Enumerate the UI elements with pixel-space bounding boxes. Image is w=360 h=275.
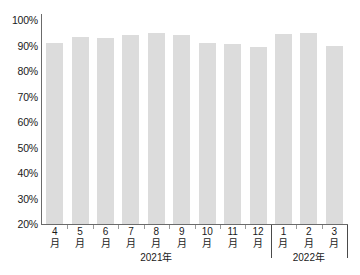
x-tick-month-number: 11 bbox=[220, 226, 246, 238]
x-tick-month-number: 12 bbox=[245, 226, 271, 238]
x-tick-month-number: 8 bbox=[143, 226, 169, 238]
x-tick-month-number: 1 bbox=[270, 226, 296, 238]
x-tick-month-number: 7 bbox=[118, 226, 144, 238]
x-axis-minor-tick bbox=[220, 225, 221, 229]
x-tick-month-number: 3 bbox=[321, 226, 347, 238]
y-axis-tick-label: 20% bbox=[0, 219, 38, 230]
x-tick-month-number: 10 bbox=[194, 226, 220, 238]
y-axis-tick-label: 40% bbox=[0, 168, 38, 179]
x-axis-minor-tick bbox=[118, 225, 119, 229]
x-axis-minor-tick bbox=[245, 225, 246, 229]
x-axis-tick-label: 4月 bbox=[42, 226, 68, 249]
x-tick-month-unit: 月 bbox=[93, 238, 119, 250]
x-axis-tick-label: 10月 bbox=[194, 226, 220, 249]
bar bbox=[122, 35, 139, 224]
x-tick-month-number: 6 bbox=[93, 226, 119, 238]
x-axis-minor-tick bbox=[322, 225, 323, 229]
x-tick-month-unit: 月 bbox=[296, 238, 322, 250]
y-axis-tick-label: 90% bbox=[0, 41, 38, 52]
y-axis-tick-label: 60% bbox=[0, 117, 38, 128]
x-axis-tick-label: 3月 bbox=[321, 226, 347, 249]
x-tick-month-unit: 月 bbox=[321, 238, 347, 250]
x-axis-minor-tick bbox=[169, 225, 170, 229]
x-tick-month-unit: 月 bbox=[245, 238, 271, 250]
x-tick-month-unit: 月 bbox=[270, 238, 296, 250]
x-tick-month-unit: 月 bbox=[169, 238, 195, 250]
bar bbox=[300, 33, 317, 224]
y-axis-labels: 100%90%80%70%60%50%40%30%20% bbox=[0, 0, 38, 275]
bar bbox=[46, 43, 63, 224]
x-tick-month-number: 2 bbox=[296, 226, 322, 238]
x-axis-minor-tick bbox=[144, 225, 145, 229]
y-axis-tick-label: 30% bbox=[0, 194, 38, 205]
bars-layer bbox=[42, 14, 348, 224]
year-group-label: 2022年 bbox=[271, 252, 347, 264]
bar bbox=[224, 44, 241, 224]
y-axis-tick-label: 50% bbox=[0, 143, 38, 154]
bar bbox=[72, 37, 89, 224]
x-axis-minor-tick bbox=[195, 225, 196, 229]
bar-chart: 100%90%80%70%60%50%40%30%20% 4月5月6月7月8月9… bbox=[0, 0, 360, 275]
x-axis-minor-tick bbox=[93, 225, 94, 229]
bar bbox=[173, 35, 190, 224]
x-axis-tick-label: 1月 bbox=[270, 226, 296, 249]
y-axis-tick-label: 100% bbox=[0, 15, 38, 26]
x-axis-tick-label: 12月 bbox=[245, 226, 271, 249]
x-tick-month-number: 9 bbox=[169, 226, 195, 238]
bar bbox=[199, 43, 216, 224]
y-axis-tick-label: 80% bbox=[0, 66, 38, 77]
bar bbox=[275, 34, 292, 224]
bar bbox=[326, 46, 343, 225]
x-tick-month-number: 5 bbox=[67, 226, 93, 238]
year-group-end-cap bbox=[347, 225, 348, 258]
x-tick-month-unit: 月 bbox=[143, 238, 169, 250]
x-tick-month-unit: 月 bbox=[220, 238, 246, 250]
bar bbox=[250, 47, 267, 224]
x-tick-month-number: 4 bbox=[42, 226, 68, 238]
x-tick-month-unit: 月 bbox=[194, 238, 220, 250]
x-tick-month-unit: 月 bbox=[67, 238, 93, 250]
year-group-label: 2021年 bbox=[42, 252, 271, 264]
x-axis-tick-label: 11月 bbox=[220, 226, 246, 249]
bar bbox=[97, 38, 114, 224]
y-axis-tick-label: 70% bbox=[0, 92, 38, 103]
x-axis-tick-label: 7月 bbox=[118, 226, 144, 249]
x-tick-month-unit: 月 bbox=[42, 238, 68, 250]
x-axis-tick-label: 6月 bbox=[93, 226, 119, 249]
x-axis-tick-label: 2月 bbox=[296, 226, 322, 249]
x-axis-tick-label: 8月 bbox=[143, 226, 169, 249]
x-tick-month-unit: 月 bbox=[118, 238, 144, 250]
x-axis-minor-tick bbox=[296, 225, 297, 229]
x-axis-tick-label: 5月 bbox=[67, 226, 93, 249]
x-axis-tick-label: 9月 bbox=[169, 226, 195, 249]
x-axis-minor-tick bbox=[67, 225, 68, 229]
bar bbox=[148, 33, 165, 224]
